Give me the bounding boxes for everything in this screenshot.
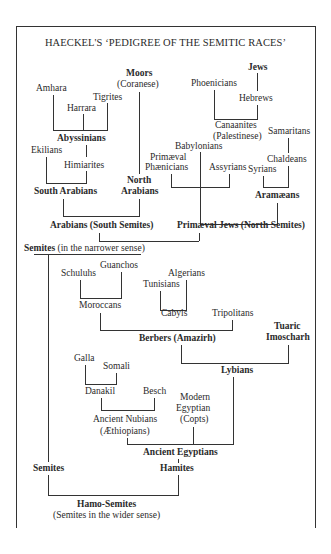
- node-somali: Somali: [103, 361, 130, 372]
- edge: [257, 105, 258, 119]
- edge: [263, 176, 264, 187]
- node-algerians: Algerians: [168, 268, 205, 279]
- node-ancient-egyptians: Ancient Egyptians: [143, 447, 218, 458]
- edge: [100, 330, 160, 331]
- edge: [199, 233, 200, 241]
- edge: [80, 298, 122, 299]
- edge: [181, 363, 289, 364]
- node-himiarites: Himiarites: [64, 160, 104, 171]
- edge: [186, 280, 187, 310]
- node-north-arabians: Arabians: [121, 186, 158, 197]
- node-cabyls: Cabyls: [161, 308, 187, 319]
- edge: [101, 398, 102, 410]
- node-arabians-south-semites: Arabians (South Semites): [50, 220, 153, 231]
- node-north: North: [127, 175, 151, 186]
- node-tunisians: Tunisians: [143, 279, 180, 290]
- edge: [171, 174, 172, 187]
- node-modern: Modern: [180, 392, 210, 403]
- diagram-title: HAECKEL'S ‘PEDIGREE OF THE SEMITIC RACES…: [0, 37, 331, 48]
- edge: [101, 410, 155, 411]
- node-amhara: Amhara: [36, 83, 67, 94]
- edge: [193, 427, 194, 444]
- node-danakil: Danakil: [85, 386, 115, 397]
- edge: [257, 73, 258, 91]
- edge: [46, 157, 47, 183]
- node-semites-wider: (Semites in the wider sense): [53, 510, 160, 521]
- node-ancient-nubians: Ancient Nubians: [93, 414, 157, 425]
- node-harrara: Harrara: [67, 103, 96, 114]
- edge: [86, 145, 87, 157]
- node-chaldeans: Chaldeans: [267, 154, 307, 165]
- edge: [86, 171, 87, 183]
- edge: [139, 199, 140, 216]
- node-lybians: Lybians: [221, 365, 253, 376]
- node-semites: Semites: [33, 463, 64, 474]
- node-egyptian: Egyptian: [176, 403, 210, 414]
- node-moors: Moors: [126, 68, 152, 79]
- edge: [288, 345, 289, 363]
- node-besch: Besch: [143, 386, 166, 397]
- node-imoscharh: Imoscharh: [266, 332, 310, 343]
- node-schuluhs: Schuluhs: [61, 268, 96, 279]
- node-tripolitans: Tripolitans: [212, 308, 253, 319]
- edge: [121, 272, 122, 298]
- node-semites-narrow-bold: Semites: [24, 243, 55, 253]
- edge: [107, 103, 108, 130]
- edge: [229, 174, 230, 187]
- edge: [53, 130, 108, 131]
- edge: [99, 241, 199, 242]
- node-hebrews: Hebrews: [239, 93, 273, 104]
- edge: [288, 138, 289, 153]
- node-syrians: Syrians: [248, 164, 277, 175]
- node-babylonians: Babylonians: [175, 141, 223, 152]
- edge: [99, 233, 100, 241]
- node-canaanites: Canaanites: [215, 120, 257, 131]
- edge: [154, 398, 155, 410]
- edge: [178, 475, 179, 495]
- node-phoenicians: Phoenicians: [191, 78, 237, 89]
- node-aramaeans: Aramæans: [255, 190, 299, 201]
- edge: [48, 475, 49, 495]
- edge: [46, 183, 87, 184]
- edge: [214, 90, 215, 119]
- node-ekilians: Ekilians: [31, 145, 62, 156]
- edge: [200, 152, 201, 224]
- edge: [53, 95, 54, 130]
- node-tuaric: Tuaric: [274, 321, 301, 332]
- edge: [63, 199, 64, 216]
- node-hamo-semites: Hamo-Semites: [77, 499, 136, 510]
- edge: [116, 373, 117, 384]
- edge: [100, 313, 101, 330]
- edge: [63, 216, 140, 217]
- node-berbers: Berbers (Amazirh): [139, 333, 216, 344]
- edge: [263, 187, 289, 188]
- edge: [181, 345, 182, 363]
- node-south-arabians: South Arabians: [34, 186, 97, 197]
- edge: [85, 384, 117, 385]
- edge: [48, 414, 49, 462]
- edge: [48, 495, 179, 496]
- node-jews: Jews: [248, 62, 268, 73]
- node-abyssinians: Abyssinians: [57, 133, 106, 144]
- edge: [48, 254, 49, 414]
- node-copts: (Copts): [180, 414, 209, 425]
- node-hamites: Hamites: [160, 463, 194, 474]
- edge: [80, 280, 81, 298]
- edge: [233, 377, 234, 444]
- node-tigrites: Tigrites: [93, 92, 122, 103]
- node-semites-narrow: Semites (in the narrower sense): [24, 243, 145, 254]
- edge: [83, 114, 84, 130]
- edge: [160, 330, 233, 331]
- node-assyrians: Assyrians: [209, 162, 246, 173]
- edge: [232, 320, 233, 330]
- node-semites-narrow-rest: (in the narrower sense): [55, 243, 145, 253]
- edge: [34, 254, 141, 255]
- edge: [85, 365, 86, 384]
- edge: [288, 166, 289, 187]
- node-phaenicians: Phænicians: [145, 162, 188, 173]
- node-guanchos: Guanchos: [100, 260, 138, 271]
- node-samaritans: Samaritans: [268, 126, 310, 137]
- node-primaeval-jews: Primæval Jews (North Semites): [177, 220, 305, 231]
- edge: [139, 92, 140, 174]
- node-aethiopians: (Æthiopians): [100, 426, 150, 437]
